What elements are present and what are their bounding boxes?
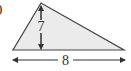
partial-label-glyph: ) [0,1,2,16]
triangle-shape [13,3,124,50]
height-label: 7 [38,19,45,34]
triangle-diagram: ) 7 8 [0,0,131,71]
base-label: 8 [62,53,69,68]
